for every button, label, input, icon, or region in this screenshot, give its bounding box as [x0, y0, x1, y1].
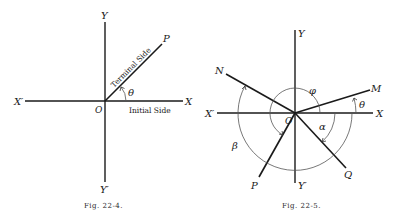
- label-terminal-side: Terminal Side: [109, 45, 153, 89]
- label-theta: θ: [359, 99, 365, 110]
- theta-arc: [354, 98, 356, 113]
- label-m: M: [370, 83, 382, 94]
- label-y-neg: Y′: [100, 184, 110, 195]
- figure-caption-22-4: Fig. 22-4.: [84, 202, 123, 210]
- label-p: P: [162, 33, 170, 44]
- label-x-neg: X′: [204, 108, 215, 119]
- label-y-neg: Y′: [298, 180, 308, 191]
- figure-caption-22-5: Fig. 22-5.: [282, 202, 321, 210]
- label-y: Y: [101, 10, 109, 21]
- label-x: X: [184, 96, 193, 107]
- label-x-neg: X′: [13, 96, 24, 107]
- label-origin: O: [95, 105, 103, 115]
- label-origin: O: [285, 116, 293, 126]
- figure-22-5: Y N M φ θ X′ X O α β Q P Y′ Fig. 22-5.: [204, 28, 384, 210]
- theta-arc: [121, 87, 126, 101]
- label-x: X: [375, 108, 384, 119]
- label-alpha: α: [319, 121, 326, 132]
- label-q: Q: [344, 169, 352, 180]
- label-initial-side: Initial Side: [129, 106, 171, 115]
- label-phi: φ: [309, 85, 316, 96]
- ray-on: [226, 74, 295, 113]
- diagram-canvas: Y P X′ X O θ Initial Side Terminal Side …: [0, 0, 398, 218]
- label-y: Y: [298, 28, 306, 39]
- label-beta: β: [231, 140, 238, 151]
- label-n: N: [214, 65, 225, 76]
- label-p: P: [250, 180, 258, 191]
- figure-22-4: Y P X′ X O θ Initial Side Terminal Side …: [13, 10, 193, 210]
- label-theta: θ: [128, 87, 134, 98]
